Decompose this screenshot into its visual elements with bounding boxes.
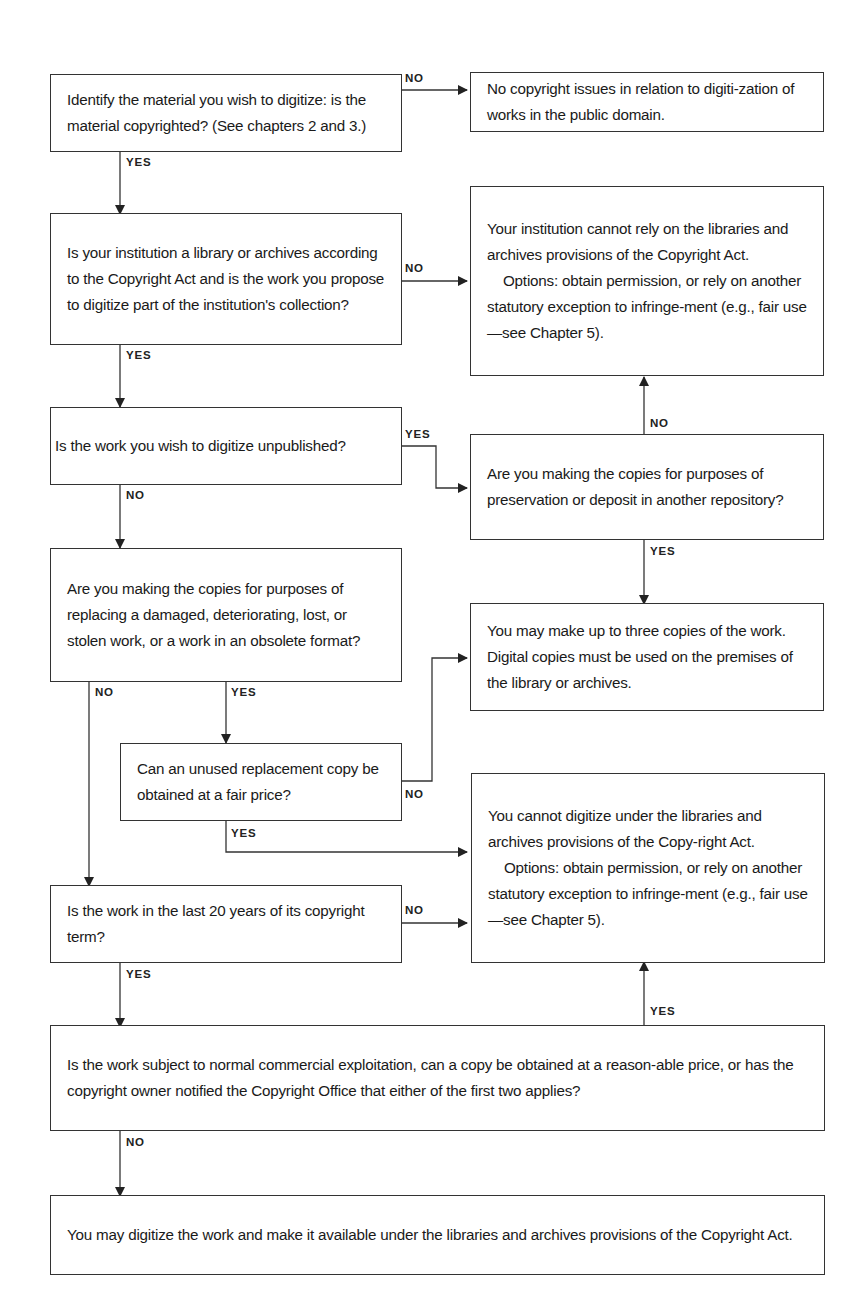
result-public-domain: No copyright issues in relation to digit… bbox=[470, 72, 824, 132]
question-replacing: Are you making the copies for purposes o… bbox=[50, 548, 402, 682]
question-unused-replacement: Can an unused replacement copy be obtain… bbox=[120, 743, 402, 821]
result-three-copies-text: You may make up to three copies of the w… bbox=[487, 618, 809, 696]
result-cannot-digitize-line1: You cannot digitize under the libraries … bbox=[488, 803, 810, 855]
edge-label-last20-yes: YES bbox=[126, 968, 151, 980]
edge-label-commercial-yes: YES bbox=[650, 1005, 675, 1017]
edge-label-copyrighted-no: NO bbox=[405, 72, 424, 84]
edge-label-institution-yes: YES bbox=[126, 349, 151, 361]
question-unused-replacement-text: Can an unused replacement copy be obtain… bbox=[137, 756, 387, 808]
result-cannot-rely-line2: Options: obtain permission, or rely on a… bbox=[487, 268, 809, 346]
question-institution: Is your institution a library or archive… bbox=[50, 213, 402, 345]
question-preservation: Are you making the copies for purposes o… bbox=[470, 434, 824, 540]
result-public-domain-text: No copyright issues in relation to digit… bbox=[487, 76, 809, 128]
question-last-20-years-text: Is the work in the last 20 years of its … bbox=[67, 898, 387, 950]
question-copyrighted-text: Identify the material you wish to digiti… bbox=[67, 87, 387, 139]
edge-label-copyrighted-yes: YES bbox=[126, 156, 151, 168]
edge-label-unused-no: NO bbox=[405, 788, 424, 800]
result-cannot-rely-line1: Your institution cannot rely on the libr… bbox=[487, 216, 809, 268]
question-preservation-text: Are you making the copies for purposes o… bbox=[487, 461, 809, 513]
result-cannot-digitize-line2: Options: obtain permission, or rely on a… bbox=[488, 855, 810, 933]
question-commercial-text: Is the work subject to normal commercial… bbox=[67, 1052, 810, 1104]
question-copyrighted: Identify the material you wish to digiti… bbox=[50, 74, 402, 152]
result-cannot-rely: Your institution cannot rely on the libr… bbox=[470, 186, 824, 376]
question-commercial: Is the work subject to normal commercial… bbox=[50, 1025, 825, 1131]
result-may-digitize-text: You may digitize the work and make it av… bbox=[67, 1222, 810, 1248]
question-last-20-years: Is the work in the last 20 years of its … bbox=[50, 885, 402, 963]
edge-label-unpublished-no: NO bbox=[126, 489, 145, 501]
result-three-copies: You may make up to three copies of the w… bbox=[470, 603, 824, 711]
edge-label-unused-yes: YES bbox=[231, 827, 256, 839]
edge-label-preservation-yes: YES bbox=[650, 545, 675, 557]
result-may-digitize: You may digitize the work and make it av… bbox=[50, 1195, 825, 1275]
question-unpublished: Is the work you wish to digitize unpubli… bbox=[50, 407, 402, 485]
edge-label-institution-no: NO bbox=[405, 262, 424, 274]
question-institution-text: Is your institution a library or archive… bbox=[67, 240, 387, 318]
edge-label-preservation-no: NO bbox=[650, 417, 669, 429]
edge-label-commercial-no: NO bbox=[126, 1136, 145, 1148]
edge-label-unpublished-yes: YES bbox=[405, 428, 430, 440]
edge-label-replacing-no: NO bbox=[95, 686, 114, 698]
question-unpublished-text: Is the work you wish to digitize unpubli… bbox=[55, 433, 387, 459]
result-cannot-digitize: You cannot digitize under the libraries … bbox=[471, 773, 825, 963]
question-replacing-text: Are you making the copies for purposes o… bbox=[67, 576, 387, 654]
edge-label-last20-no: NO bbox=[405, 904, 424, 916]
edge-label-replacing-yes: YES bbox=[231, 686, 256, 698]
